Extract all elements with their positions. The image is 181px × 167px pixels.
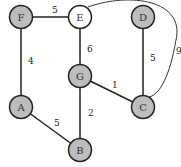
edge-weight-label: 5	[54, 118, 60, 128]
edge-weight-label: 1	[112, 80, 118, 90]
edge-weight-label: 2	[88, 108, 94, 118]
node-E: E	[69, 6, 92, 29]
node-F: F	[10, 6, 33, 29]
edge-weight-label: 5	[52, 5, 58, 15]
node-D: D	[132, 6, 155, 29]
node-label: G	[76, 71, 84, 82]
node-G: G	[69, 65, 92, 88]
node-label: C	[139, 102, 147, 113]
node-A: A	[10, 96, 33, 119]
edge-weight-label: 6	[87, 44, 93, 54]
edge-weight-label: 5	[150, 53, 156, 63]
node-label: F	[18, 12, 25, 23]
node-label: D	[139, 12, 147, 23]
graph-canvas: 56451259FEDGACB	[0, 0, 181, 167]
node-label: B	[76, 145, 83, 156]
graph-diagram: 56451259FEDGACB	[0, 0, 181, 167]
node-C: C	[132, 96, 155, 119]
node-label: E	[76, 12, 83, 23]
edge-weight-label: 9	[176, 46, 181, 56]
node-B: B	[69, 139, 92, 162]
node-label: A	[16, 102, 25, 113]
edge-weight-label: 4	[28, 56, 34, 66]
